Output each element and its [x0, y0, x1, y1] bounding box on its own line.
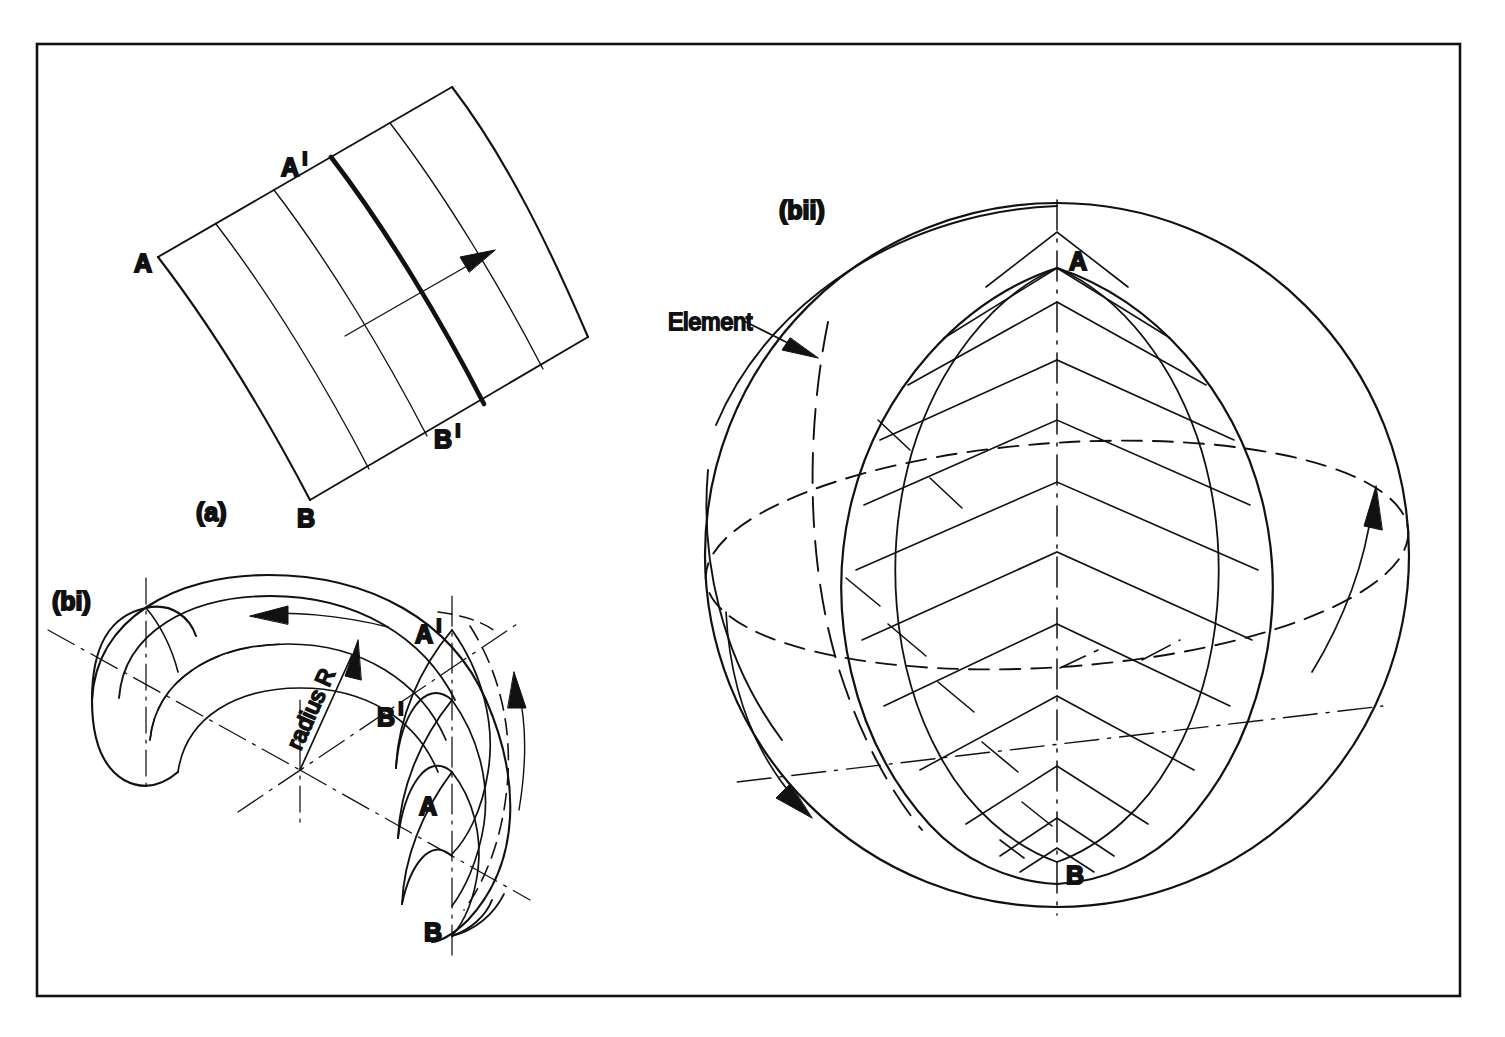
centre-tick-4	[982, 742, 1018, 772]
panel-bi-label-B: B	[424, 918, 442, 946]
centre-tick-1	[846, 578, 880, 606]
panel-a-rib-1	[216, 224, 369, 469]
panel-bii-element-leader-head	[782, 338, 818, 358]
panel-bi-element-arc-bottom-2	[452, 894, 504, 936]
panel-bi-label-B-prime: B I	[377, 698, 404, 731]
panel-a-rib-4	[390, 123, 543, 369]
centre-tick-9	[1142, 640, 1180, 660]
panel-bi-radius-label: radius R	[281, 664, 340, 753]
panel-a-label-B-prime-letter: B	[434, 425, 452, 453]
panel-bii-lune-inner-left	[895, 268, 1057, 862]
panel-bi: (bi) radius R	[48, 575, 530, 960]
panel-a-label-B-prime-mark: I	[455, 420, 460, 441]
panel-bii-oblique-axis	[736, 706, 1383, 782]
panel-bii: (bii)	[668, 196, 1416, 915]
panel-a-label-B-prime: B I	[434, 420, 461, 453]
panel-bii-lune-left-profile	[841, 268, 1057, 884]
panel-a-label-A-prime: A I	[281, 148, 308, 181]
panel-bi-radius-arrow-head	[345, 640, 361, 680]
centre-tick-5	[1022, 802, 1052, 826]
centre-tick-6	[930, 478, 962, 508]
panel-a-label-A: A	[134, 249, 152, 277]
panel-bi-label-A: A	[419, 792, 437, 820]
centre-tick-7	[878, 420, 910, 450]
panel-bi-left-cap-outer	[92, 607, 196, 700]
panel-a-left-curve	[158, 257, 310, 500]
panel-bii-rotation-arrow-right-head	[1364, 486, 1382, 530]
panel-a-element-bold	[331, 157, 484, 404]
panel-bii-lune-right-profile	[1057, 268, 1273, 884]
panel-a-label-A-prime-letter: A	[281, 153, 299, 181]
diagram-canvas: A A I B B I (a) (bi)	[0, 0, 1505, 1037]
panel-a-rib-2	[274, 190, 427, 436]
centre-tick-2	[888, 624, 926, 656]
panel-bii-generator-arc-lower-left	[706, 470, 782, 740]
panel-a-caption: (a)	[196, 498, 227, 526]
panel-bi-left-cap-lower	[92, 700, 178, 786]
panel-bi-hidden-trace	[464, 626, 508, 910]
panel-bii-lune-inner-right	[1057, 268, 1219, 862]
panel-bi-centreline-oblique-left	[48, 630, 300, 770]
panel-bii-label-B: B	[1066, 861, 1084, 889]
panel-a-label-B: B	[297, 504, 315, 532]
panel-bi-label-B-prime-mark: I	[398, 698, 403, 719]
centre-tick-3	[938, 682, 974, 712]
panel-bii-caption: (bii)	[779, 196, 825, 224]
panel-a-direction-arrow-head	[460, 250, 495, 272]
panel-bii-element-label: Element	[668, 309, 753, 335]
panel-bii-centre-plane-ticks	[846, 420, 1180, 858]
panel-bi-sweep-arrow2-head	[508, 672, 526, 708]
panel-bi-label-A-prime: A I	[415, 615, 442, 648]
panel-bi-label-A-prime-letter: A	[415, 620, 433, 648]
panel-bii-rotation-arrow-left-shaft	[726, 612, 796, 800]
panel-bii-generator-arc-upper-left	[716, 206, 1057, 425]
figure-page: A A I B B I (a) (bi)	[0, 0, 1505, 1037]
panel-bi-hidden-trace-2	[438, 612, 498, 634]
panel-bii-element-meridian	[813, 322, 922, 830]
panel-bi-caption: (bi)	[52, 587, 91, 615]
panel-bii-rotation-arrow-right-shaft	[1312, 506, 1372, 672]
panel-bii-label-A: A	[1069, 247, 1087, 275]
panel-bi-sweep-arrow-head	[250, 606, 288, 624]
panel-a-bottom-edge	[310, 337, 588, 500]
panel-a-right-curve	[452, 87, 588, 337]
panel-a-label-A-prime-mark: I	[302, 148, 307, 169]
panel-bi-label-A-prime-mark: I	[436, 615, 441, 636]
panel-a-direction-arrow-shaft	[345, 258, 481, 336]
panel-a: A A I B B I (a)	[134, 87, 588, 532]
panel-bi-label-B-prime-letter: B	[377, 703, 395, 731]
